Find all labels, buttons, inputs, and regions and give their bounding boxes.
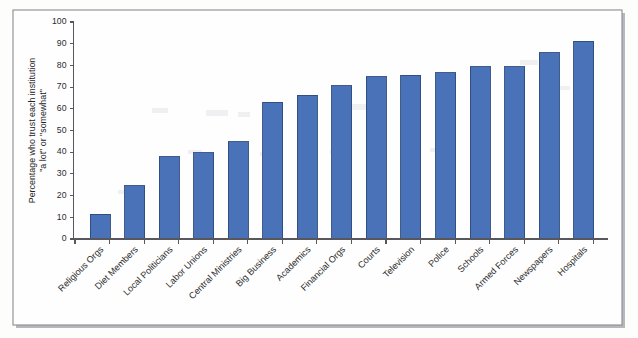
bar-newspapers[interactable] <box>539 53 559 239</box>
chart-figure: 0102030405060708090100 Religious OrgsDie… <box>0 0 638 338</box>
bar-academics[interactable] <box>297 95 317 239</box>
y-tick-label-100: 100 <box>52 16 67 26</box>
y-tick-label-40: 40 <box>57 146 67 156</box>
y-tick-label-70: 70 <box>57 81 67 91</box>
y-tick-label-60: 60 <box>57 103 67 113</box>
bar-schools[interactable] <box>470 67 490 239</box>
scan-speck <box>238 112 250 117</box>
y-tick-label-80: 80 <box>57 60 67 70</box>
y-tick-label-50: 50 <box>57 125 67 135</box>
bar-religious-orgs[interactable] <box>90 214 110 239</box>
y-axis-title-line2: "a lot" or "somewhat" <box>38 89 48 172</box>
scan-speck <box>152 108 168 113</box>
y-tick-label-20: 20 <box>57 190 67 200</box>
y-axis-title-line1: Percentage who trust each institution <box>27 58 37 204</box>
scan-speck <box>206 110 228 116</box>
scan-speck <box>520 60 538 65</box>
y-tick-label-90: 90 <box>57 38 67 48</box>
bar-chart-canvas: 0102030405060708090100 Religious OrgsDie… <box>0 0 638 338</box>
bar-big-business[interactable] <box>263 102 283 239</box>
y-tick-label-10: 10 <box>57 212 67 222</box>
bar-labor-unions[interactable] <box>194 153 214 239</box>
bar-financial-orgs[interactable] <box>332 86 352 239</box>
bar-central-ministries[interactable] <box>228 142 248 239</box>
y-tick-label-0: 0 <box>62 233 67 243</box>
bar-hospitals[interactable] <box>574 41 594 239</box>
bar-television[interactable] <box>401 75 421 239</box>
bar-local-politicians[interactable] <box>159 157 179 239</box>
bar-armed-forces[interactable] <box>505 67 525 239</box>
y-tick-label-30: 30 <box>57 168 67 178</box>
bar-police[interactable] <box>436 73 456 239</box>
bar-diet-members[interactable] <box>125 186 145 239</box>
bar-courts[interactable] <box>366 77 386 239</box>
